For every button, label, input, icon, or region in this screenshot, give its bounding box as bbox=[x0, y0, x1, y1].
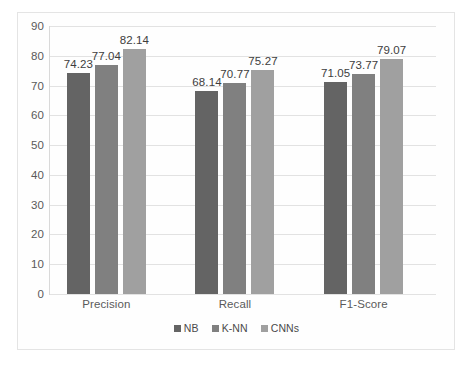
bar-group: 68.1470.7775.27 bbox=[179, 26, 308, 294]
y-axis-tick-label: 40 bbox=[4, 169, 44, 181]
legend-label: CNNs bbox=[271, 322, 299, 334]
bar bbox=[324, 82, 347, 294]
y-axis-tick-label: 80 bbox=[4, 50, 44, 62]
y-axis-tick-label: 0 bbox=[4, 288, 44, 300]
x-axis-category-label: Precision bbox=[46, 298, 166, 310]
gridline bbox=[50, 294, 436, 295]
legend-swatch-icon bbox=[212, 325, 219, 332]
bar bbox=[223, 83, 246, 294]
bar-group: 74.2377.0482.14 bbox=[50, 26, 179, 294]
bar-groups: 74.2377.0482.1468.1470.7775.2771.0573.77… bbox=[50, 26, 436, 294]
y-axis-tick-label: 20 bbox=[4, 228, 44, 240]
legend-label: K-NN bbox=[222, 322, 248, 334]
y-axis-tick-label: 50 bbox=[4, 139, 44, 151]
bar bbox=[123, 49, 146, 294]
bar-value-label: 82.14 bbox=[111, 34, 157, 46]
y-axis-tick-label: 30 bbox=[4, 199, 44, 211]
bar bbox=[95, 65, 118, 294]
legend-item[interactable]: NB bbox=[174, 322, 199, 334]
y-axis-tick-label: 90 bbox=[4, 20, 44, 32]
bar-value-label: 75.27 bbox=[240, 55, 286, 67]
bar-chart: 0102030405060708090 74.2377.0482.1468.14… bbox=[0, 0, 473, 373]
bar bbox=[195, 91, 218, 294]
bar bbox=[251, 70, 274, 294]
bar-group: 71.0573.7779.07 bbox=[307, 26, 436, 294]
bar bbox=[67, 73, 90, 294]
y-axis-tick-label: 70 bbox=[4, 80, 44, 92]
bar bbox=[380, 59, 403, 294]
x-axis-category-label: Recall bbox=[175, 298, 295, 310]
x-axis-category-label: F1-Score bbox=[304, 298, 424, 310]
legend-item[interactable]: K-NN bbox=[212, 322, 248, 334]
legend-item[interactable]: CNNs bbox=[261, 322, 299, 334]
legend-swatch-icon bbox=[174, 325, 181, 332]
y-axis-ticks: 0102030405060708090 bbox=[0, 26, 44, 294]
chart-legend: NBK-NNCNNs bbox=[0, 322, 473, 334]
x-axis-labels: PrecisionRecallF1-Score bbox=[50, 298, 436, 316]
bar-value-label: 79.07 bbox=[369, 44, 415, 56]
legend-swatch-icon bbox=[261, 325, 268, 332]
y-axis-tick-label: 10 bbox=[4, 258, 44, 270]
legend-label: NB bbox=[184, 322, 199, 334]
y-axis-tick-label: 60 bbox=[4, 109, 44, 121]
bar bbox=[352, 74, 375, 294]
